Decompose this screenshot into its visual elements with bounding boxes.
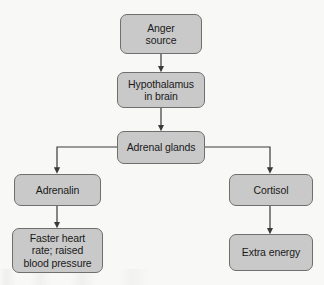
node-hypothalamus-in-brain: Hypothalamus in brain bbox=[117, 72, 205, 108]
node-cortisol: Cortisol bbox=[229, 174, 313, 206]
node-anger-source: Anger source bbox=[120, 14, 202, 54]
node-adrenalin: Adrenalin bbox=[14, 174, 101, 206]
node-adrenal-glands: Adrenal glands bbox=[117, 131, 205, 164]
edge-adrenal-glands-to-adrenalin bbox=[57, 147, 117, 168]
node-extra-energy: Extra energy bbox=[229, 234, 313, 271]
edge-adrenal-glands-to-cortisol bbox=[205, 147, 270, 168]
flowchart-diagram: Anger source Hypothalamus in brain Adren… bbox=[0, 0, 324, 285]
node-faster-heart-rate: Faster heart rate; raised blood pressure bbox=[12, 228, 103, 273]
